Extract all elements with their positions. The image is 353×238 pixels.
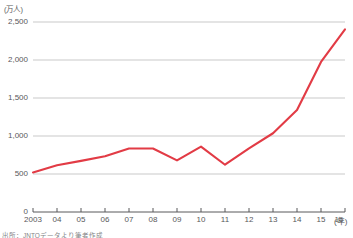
x-tick-label-04: 04: [46, 215, 68, 224]
y-tick-label-2000: 2,000: [0, 55, 28, 64]
source-note: 出所：JNTOデータより筆者作成: [2, 230, 103, 238]
x-axis-ticks: [33, 208, 345, 212]
x-axis-unit-label: (年): [334, 215, 347, 226]
y-tick-label-1500: 1,500: [0, 93, 28, 102]
y-tick-label-500: 500: [0, 169, 28, 178]
x-tick-label-07: 07: [118, 215, 140, 224]
y-tick-label-1000: 1,000: [0, 131, 28, 140]
x-tick-label-2003: 2003: [19, 215, 47, 224]
x-tick-label-10: 10: [190, 215, 212, 224]
gridlines: [33, 22, 345, 174]
y-tick-label-2500: 2,500: [0, 17, 28, 26]
x-tick-label-11: 11: [214, 215, 236, 224]
x-tick-label-13: 13: [262, 215, 284, 224]
chart-container: (万人) 2,500 2,000: [0, 0, 353, 238]
x-tick-label-08: 08: [142, 215, 164, 224]
x-tick-label-09: 09: [166, 215, 188, 224]
x-tick-label-05: 05: [70, 215, 92, 224]
x-tick-label-06: 06: [94, 215, 116, 224]
data-series-line: [33, 29, 345, 172]
x-tick-label-12: 12: [238, 215, 260, 224]
chart-plot-area: [0, 0, 353, 238]
x-tick-label-14: 14: [286, 215, 308, 224]
x-tick-label-15: 15: [310, 215, 332, 224]
